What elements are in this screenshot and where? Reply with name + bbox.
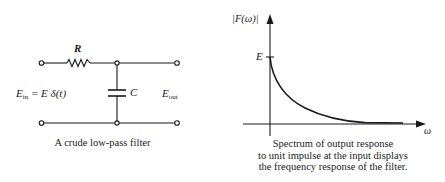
terminal-in-top (39, 61, 44, 66)
plot-caption-line-1: Spectrum of output response (243, 138, 423, 150)
plot-caption-line-2: to unit impulse at the input displays (243, 150, 423, 162)
capacitor-label: C (130, 86, 137, 98)
terminal-in-bottom (39, 121, 44, 126)
node-top (115, 61, 119, 65)
node-bottom (115, 121, 119, 125)
input-symbol: E (16, 87, 23, 99)
input-expression: = E δ(t) (28, 87, 66, 99)
circuit-caption: A crude low-pass filter (35, 137, 170, 149)
output-subscript: out (169, 93, 178, 101)
y-tick-label-E: E (256, 50, 263, 62)
spectrum-plot (243, 14, 426, 136)
response-curve (270, 57, 403, 123)
output-label: Eout (162, 87, 178, 101)
input-label: Ein = E δ(t) (16, 87, 66, 101)
y-axis-arrow-icon (267, 14, 274, 24)
plot-caption-line-3: the frequency response of the filter. (243, 161, 423, 173)
output-symbol: E (162, 87, 169, 99)
terminal-out-top (175, 61, 180, 66)
y-axis-label: |F(ω)| (232, 13, 259, 24)
resistor-icon (67, 60, 90, 67)
resistor-label: R (74, 42, 81, 54)
terminal-out-bottom (175, 121, 180, 126)
x-axis-label: ω (424, 125, 431, 136)
plot-caption: Spectrum of output response to unit impu… (243, 138, 423, 173)
